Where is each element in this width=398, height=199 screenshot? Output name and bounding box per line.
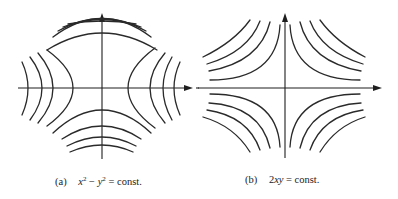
y-axis-arrow-icon — [282, 13, 288, 22]
quadrant-3-curves — [203, 94, 280, 152]
x-axis-arrow-icon — [373, 85, 382, 91]
panel-label-b: (b) — [245, 174, 257, 185]
caption-b: (b) 2xy = const. — [245, 174, 319, 185]
panel-a-x2-minus-y2: (a) x2 − y2 = const. — [0, 0, 199, 199]
panel-label-a: (a) — [55, 176, 67, 187]
panel-b-2xy: (b) 2xy = const. — [198, 0, 398, 199]
quadrant-4-curves — [290, 94, 365, 152]
equation-b: 2xy = const. — [269, 174, 320, 185]
equation-a: x2 − y2 = const. — [78, 176, 141, 187]
contour-plot-a — [0, 0, 199, 170]
caption-a: (a) x2 − y2 = const. — [55, 174, 142, 187]
contour-plot-b — [198, 0, 398, 170]
x-axis-arrow-icon — [184, 85, 193, 91]
quadrant-2-curves — [203, 20, 280, 80]
quadrant-1-curves — [290, 20, 365, 80]
